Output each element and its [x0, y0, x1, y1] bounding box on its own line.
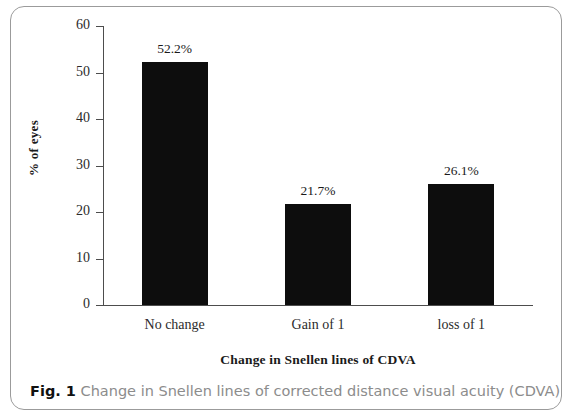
y-tick-mark: [96, 26, 103, 27]
figure-caption-text: Change in Snellen lines of corrected dis…: [81, 383, 561, 399]
y-tick-mark: [96, 119, 103, 120]
y-axis-title: % of eyes: [26, 108, 42, 188]
x-axis-title: Change in Snellen lines of CDVA: [103, 352, 533, 368]
y-tick-label: 0: [46, 297, 90, 311]
bar-value-label: 52.2%: [115, 41, 235, 57]
bar: [428, 184, 494, 305]
bar: [285, 204, 351, 305]
bar-chart: % of eyes 0102030405060 52.2%No change21…: [0, 0, 566, 348]
bar-value-label: 26.1%: [401, 163, 521, 179]
y-tick-label: 20: [46, 204, 90, 218]
x-axis-line: [103, 305, 533, 306]
bar-value-label: 21.7%: [258, 183, 378, 199]
bar: [142, 62, 208, 305]
y-tick-mark: [96, 73, 103, 74]
figure-caption-label: Fig. 1: [30, 383, 76, 399]
y-tick-label: 50: [46, 65, 90, 79]
y-tick-label: 60: [46, 18, 90, 32]
figure-caption: Fig. 1 Change in Snellen lines of correc…: [30, 383, 560, 399]
y-tick-mark: [96, 212, 103, 213]
y-tick-label: 40: [46, 111, 90, 125]
y-tick-label: 10: [46, 251, 90, 265]
x-category-label: Gain of 1: [243, 317, 393, 333]
x-category-label: loss of 1: [386, 317, 536, 333]
y-tick-mark: [96, 166, 103, 167]
x-category-label: No change: [100, 317, 250, 333]
y-tick-label: 30: [46, 158, 90, 172]
y-tick-mark: [96, 259, 103, 260]
y-axis-line: [103, 26, 104, 306]
y-tick-mark: [96, 305, 103, 306]
